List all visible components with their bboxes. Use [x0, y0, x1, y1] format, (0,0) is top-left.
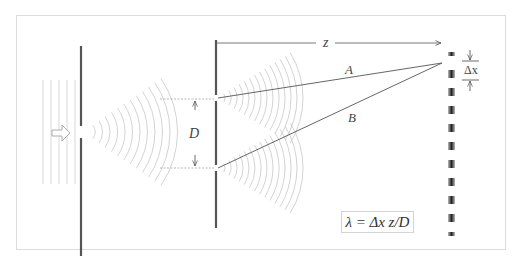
ray-a — [218, 63, 442, 98]
rays — [218, 63, 442, 168]
wavefronts-source — [93, 79, 178, 186]
wavelength-formula: λ = Δx z/D — [341, 211, 414, 233]
interference-screen — [448, 52, 455, 236]
diagram-canvas — [0, 0, 521, 266]
ray-b — [218, 63, 442, 168]
label-ray-b: B — [348, 110, 356, 126]
wavefronts-slit-2 — [224, 123, 303, 213]
label-z: z — [323, 35, 328, 51]
slit-separation-guides — [160, 99, 214, 168]
double-slit-diagram: z A B D Δx λ = Δx z/D — [0, 0, 521, 266]
label-ray-a: A — [345, 62, 353, 78]
label-delta-x: Δx — [464, 63, 478, 78]
wavefronts-slit-1 — [224, 53, 303, 143]
label-d: D — [189, 126, 199, 142]
